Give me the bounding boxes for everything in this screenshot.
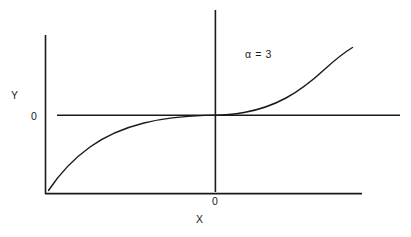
power-curve-alpha-3 bbox=[49, 48, 353, 191]
y-axis-origin-tick-label: 0 bbox=[31, 111, 37, 122]
y-axis-label: Y bbox=[11, 90, 18, 101]
figure-canvas: Y 0 0 X α = 3 bbox=[0, 0, 411, 237]
x-axis-origin-tick-label: 0 bbox=[212, 196, 218, 207]
plot-svg bbox=[0, 0, 411, 237]
x-axis-label: X bbox=[196, 214, 203, 225]
alpha-parameter-annotation: α = 3 bbox=[245, 49, 272, 60]
